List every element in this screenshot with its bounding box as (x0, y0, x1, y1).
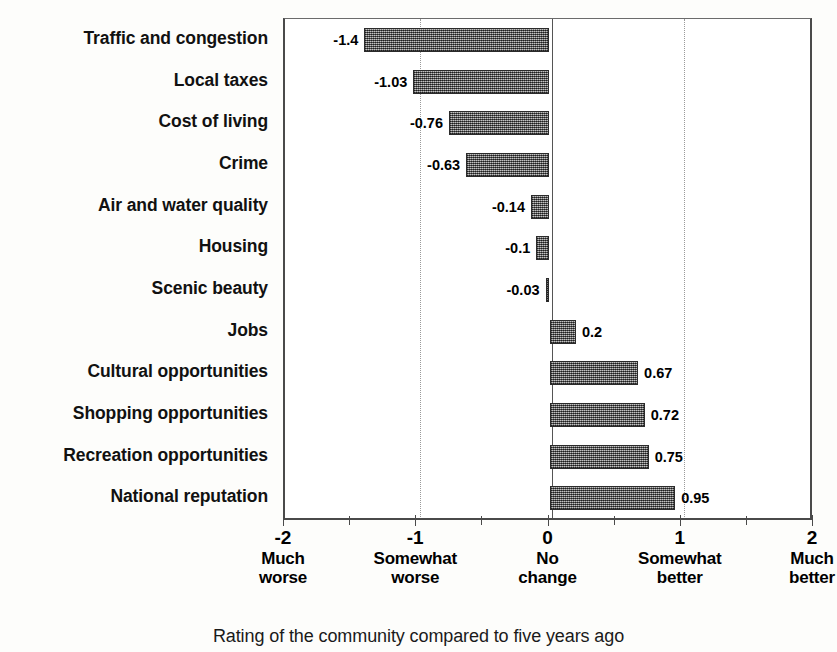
bar-value-label: -0.76 (339, 111, 443, 135)
x-tick-descriptor-line2: worse (208, 568, 358, 587)
bar-value-label: 0.95 (681, 486, 785, 510)
x-axis-minor-tick (614, 516, 615, 525)
bar (466, 153, 549, 177)
bar-value-label: 0.2 (582, 320, 686, 344)
x-tick-descriptor-line2: worse (340, 568, 490, 587)
category-label: Recreation opportunities (0, 447, 268, 465)
x-axis-tick (680, 515, 681, 526)
gridline-minus-one (420, 19, 421, 519)
category-label: Scenic beauty (0, 280, 268, 298)
x-axis-title: Rating of the community compared to five… (0, 625, 837, 647)
x-axis-minor-tick (349, 516, 350, 525)
bar-value-label: -0.14 (421, 195, 525, 219)
x-axis-tick (812, 515, 813, 526)
x-axis-tick (415, 515, 416, 526)
bar (536, 236, 549, 260)
x-axis-line (283, 518, 812, 520)
x-axis-tick-labels: -2Muchworse-1Somewhatworse0Nochange1Some… (0, 527, 837, 597)
category-label: Local taxes (0, 72, 268, 90)
category-label: Cost of living (0, 113, 268, 131)
bar (550, 361, 639, 385)
category-label: Cultural opportunities (0, 363, 268, 381)
x-tick-descriptor-line2: better (605, 568, 755, 587)
x-axis-tick (548, 515, 549, 526)
plot-area: -1.4-1.03-0.76-0.63-0.14-0.1-0.030.20.67… (283, 18, 812, 518)
category-axis-labels: Traffic and congestionLocal taxesCost of… (0, 18, 268, 518)
x-tick-label-group: 1Somewhatbetter (605, 527, 755, 587)
x-axis-minor-tick (746, 516, 747, 525)
x-tick-descriptor-line1: Somewhat (605, 549, 755, 568)
bar (550, 486, 676, 510)
x-tick-label-group: -1Somewhatworse (340, 527, 490, 587)
bar-value-label: 0.72 (651, 403, 755, 427)
category-label: Shopping opportunities (0, 405, 268, 423)
x-tick-descriptor-line1: Somewhat (340, 549, 490, 568)
bar-value-label: 0.75 (655, 445, 759, 469)
x-tick-value: 1 (605, 527, 755, 549)
bar-value-label: -0.1 (426, 236, 530, 260)
bar (413, 70, 549, 94)
bar-chart-figure: Traffic and congestionLocal taxesCost of… (0, 0, 837, 652)
x-tick-value: -1 (340, 527, 490, 549)
x-tick-label-group: -2Muchworse (208, 527, 358, 587)
x-tick-value: 0 (473, 527, 623, 549)
x-tick-descriptor-line1: Much (737, 549, 837, 568)
bar (550, 320, 576, 344)
bar-value-label: -1.03 (303, 70, 407, 94)
bar (550, 445, 649, 469)
bar-value-label: 0.67 (644, 361, 748, 385)
bar (449, 111, 550, 135)
x-axis-tick (283, 515, 284, 526)
x-tick-label-group: 0Nochange (473, 527, 623, 587)
x-tick-descriptor-line2: change (473, 568, 623, 587)
category-label: Air and water quality (0, 197, 268, 215)
x-tick-descriptor-line1: No (473, 549, 623, 568)
x-tick-label-group: 2Muchbetter (737, 527, 837, 587)
bar (364, 28, 549, 52)
x-tick-descriptor-line2: better (737, 568, 837, 587)
category-label: Traffic and congestion (0, 30, 268, 48)
x-tick-descriptor-line1: Much (208, 549, 358, 568)
category-label: Crime (0, 155, 268, 173)
x-tick-value: -2 (208, 527, 358, 549)
bar (546, 278, 550, 302)
category-label: Housing (0, 238, 268, 256)
bar-value-label: -0.03 (436, 278, 540, 302)
category-label: National reputation (0, 488, 268, 506)
x-axis-minor-tick (481, 516, 482, 525)
bar (531, 195, 550, 219)
category-label: Jobs (0, 322, 268, 340)
bar (550, 403, 645, 427)
bar-value-label: -0.63 (356, 153, 460, 177)
bar-value-label: -1.4 (254, 28, 358, 52)
x-tick-value: 2 (737, 527, 837, 549)
